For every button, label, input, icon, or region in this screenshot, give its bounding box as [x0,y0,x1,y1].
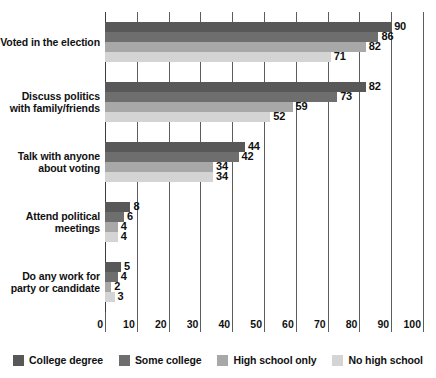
x-tick-label: 90 [378,318,392,330]
category-label: Talk with anyoneabout voting [0,150,100,175]
x-tick-mark [359,312,360,332]
bar[interactable] [105,22,391,32]
category-label-line: Do any work for [0,270,100,283]
bar-group: 82735952 [105,82,423,122]
category-label-line: meetings [0,222,100,235]
bar-value-label: 3 [118,290,124,303]
category-label-line: Voted in the election [0,36,100,49]
x-tick-mark [264,312,265,332]
bar[interactable] [105,82,366,92]
bar[interactable] [105,172,213,182]
x-tick-mark [328,312,329,332]
bar-value-label: 59 [296,100,308,113]
category-label-line: with family/friends [0,102,100,115]
bar-value-label: 86 [381,30,393,43]
bar-value-label: 34 [216,170,228,183]
x-axis: 0102030405060708090100 [105,312,423,334]
bar[interactable] [105,52,331,62]
x-tick-mark [200,312,201,332]
bar-value-label: 4 [121,230,127,243]
legend-label: Some college [135,354,202,366]
x-tick-mark [391,312,392,332]
legend-label: College degree [29,354,103,366]
x-tick-mark [105,312,106,332]
x-tick-mark [169,312,170,332]
category-label-line: about voting [0,162,100,175]
bar-value-label: 4 [121,270,127,283]
legend-item[interactable]: College degree [13,354,103,366]
legend-swatch-icon [119,355,130,366]
category-label: Do any work forparty or candidate [0,270,100,295]
bar-value-label: 82 [369,40,381,53]
x-tick-mark [137,312,138,332]
x-tick-label: 40 [219,318,233,330]
bar[interactable] [105,112,270,122]
category-label-line: Discuss politics [0,90,100,103]
category-label: Attend politicalmeetings [0,210,100,235]
x-tick-mark [423,312,424,332]
x-tick-label: 0 [97,318,105,330]
category-label-line: Talk with anyone [0,150,100,163]
category-label-column: Voted in the electionDiscuss politicswit… [0,12,100,312]
legend-swatch-icon [217,355,228,366]
x-tick-label: 30 [187,318,201,330]
bar-value-label: 73 [340,90,352,103]
x-tick-label: 50 [250,318,264,330]
x-tick-label: 60 [282,318,296,330]
x-tick-label: 70 [314,318,328,330]
x-tick-mark [296,312,297,332]
legend-swatch-icon [332,355,343,366]
bar-value-label: 82 [369,80,381,93]
legend-label: High school only [233,354,316,366]
bar[interactable] [105,222,118,232]
bar[interactable] [105,282,111,292]
legend-item[interactable]: No high school [332,354,422,366]
bar-value-label: 42 [242,150,254,163]
bar[interactable] [105,232,118,242]
category-label-line: Attend political [0,210,100,223]
x-tick-label: 20 [155,318,169,330]
bar[interactable] [105,32,378,42]
chart-legend: College degreeSome collegeHigh school on… [0,349,436,371]
gridline-100 [423,12,424,312]
legend-swatch-icon [13,355,24,366]
legend-item[interactable]: Some college [119,354,202,366]
legend-label: No high school [348,354,422,366]
x-tick-mark [232,312,233,332]
bar-group: 8644 [105,202,423,242]
bar-chart: Voted in the electionDiscuss politicswit… [0,0,436,378]
bar-value-label: 90 [394,20,406,33]
bar-group: 90868271 [105,22,423,62]
bar-group: 44423434 [105,142,423,182]
bar-value-label: 8 [133,200,139,213]
bar-value-label: 71 [334,50,346,63]
bar[interactable] [105,102,293,112]
category-label: Discuss politicswith family/friends [0,90,100,115]
bar[interactable] [105,292,115,302]
bar-group: 5423 [105,262,423,302]
plot-area: 90868271827359524442343486445423 [105,12,423,312]
category-label-line: party or candidate [0,282,100,295]
x-tick-label: 80 [346,318,360,330]
bar[interactable] [105,142,245,152]
bar-value-label: 6 [127,210,133,223]
bar[interactable] [105,42,366,52]
bar[interactable] [105,262,121,272]
bar[interactable] [105,162,213,172]
category-label: Voted in the election [0,36,100,49]
bar-value-label: 52 [273,110,285,123]
x-tick-label: 100 [403,318,423,330]
legend-item[interactable]: High school only [217,354,316,366]
x-tick-label: 10 [123,318,137,330]
